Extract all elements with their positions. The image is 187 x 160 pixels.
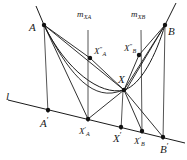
vertex-xb-prime [140,129,144,133]
chord-a-to-xa-double-prime [44,25,90,58]
vertex-X [122,88,126,92]
projector-X [121,90,123,130]
projector-B [163,25,165,140]
label-xa-double-prime: X″A [94,46,106,57]
label-x-prime: X′ [113,131,121,144]
vertex-xa-double-prime [88,56,92,60]
vertex-B [163,23,167,27]
label-xb-prime: X′B [134,136,145,147]
projector-A [44,25,48,113]
chord-xb-prime-to-x [124,90,142,131]
label-point-a: A [29,22,36,33]
vertex-a-prime [46,108,50,112]
chord-xa-prime-to-x [88,90,124,119]
label-b-prime: B′ [160,142,168,155]
vertex-xb-double-prime [137,53,141,57]
vertex-x-prime [119,125,123,129]
label-xb-double-prime: X″B [124,43,136,54]
line-m-xb [141,30,142,134]
label-line-m-xa: mXA [77,10,91,20]
label-a-prime: A′ [40,116,48,129]
chord-b-to-x-alt [126,25,165,90]
label-xa-prime: X′A [79,126,90,137]
chord-b-to-xb-double-prime [139,25,165,55]
label-line-m-xb: mXB [131,10,145,20]
vertex-b-prime [161,135,165,139]
vertex-A [42,23,46,27]
label-point-b: B [168,26,175,37]
label-axis-l: l [6,91,9,102]
chord-a-to-x [44,25,124,90]
axis-line-l [8,100,185,143]
chord-a-to-xa-prime [44,25,88,119]
label-point-x: X [118,74,125,85]
vertex-xa-prime [86,117,90,121]
geometry-figure: A B mXA mXB X″A X″B X l A′ X′A X′ X′B B′ [0,0,187,160]
